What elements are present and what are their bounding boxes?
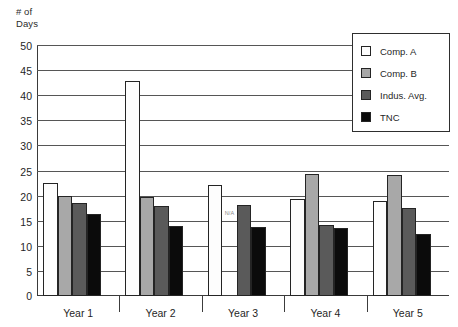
bar: [251, 227, 266, 296]
bar: [290, 199, 305, 296]
bar: [416, 234, 431, 296]
legend-swatch-icon: [361, 46, 371, 56]
chart-legend: Comp. AComp. BIndus. Avg.TNC: [352, 33, 450, 132]
legend-item: Comp. B: [361, 62, 449, 84]
y-axis-tick-label: 5: [26, 266, 32, 278]
y-axis-tick-label: 45: [20, 65, 32, 77]
bar-group: N/A: [202, 45, 284, 296]
x-axis-label: Year 1: [37, 302, 119, 324]
legend-item-label: TNC: [380, 112, 400, 123]
y-axis-tick-label: 50: [20, 40, 32, 52]
legend-swatch-icon: [361, 68, 371, 78]
bar: [319, 225, 334, 296]
bar: [140, 197, 155, 296]
y-axis-tick-label: 10: [20, 241, 32, 253]
bar: [402, 208, 417, 296]
bar: [169, 226, 184, 296]
y-axis-tick-label: 20: [20, 191, 32, 203]
bar: [72, 203, 87, 296]
y-axis-tick-label: 35: [20, 115, 32, 127]
y-axis-title: # of Days: [16, 6, 38, 30]
y-axis-tick-label: 40: [20, 90, 32, 102]
x-axis-label: Year 5: [367, 302, 449, 324]
bar-chart: # of Days 05101520253035404550 N/A Year …: [0, 0, 458, 327]
legend-swatch-icon: [361, 90, 371, 100]
x-axis-label: Year 4: [284, 302, 366, 324]
legend-item-label: Comp. B: [380, 68, 417, 79]
legend-swatch-icon: [361, 112, 371, 122]
x-axis-label: Year 3: [202, 302, 284, 324]
bar: [237, 205, 252, 296]
bar: [58, 196, 73, 296]
x-axis-labels: Year 1Year 2Year 3Year 4Year 5: [37, 302, 449, 324]
legend-item-label: Comp. A: [380, 46, 416, 57]
y-axis-tick-label: 15: [20, 216, 32, 228]
na-annotation: N/A: [225, 210, 235, 216]
y-axis-tick-label: 30: [20, 140, 32, 152]
legend-item: TNC: [361, 106, 449, 128]
bar: [125, 81, 140, 296]
bar: N/A: [222, 45, 237, 296]
legend-item: Indus. Avg.: [361, 84, 449, 106]
bar-group: [119, 45, 201, 296]
legend-item: Comp. A: [361, 40, 449, 62]
bar: [387, 175, 402, 296]
y-axis-tick-label: 0: [26, 290, 32, 302]
bar-group: [37, 45, 119, 296]
x-axis-label: Year 2: [119, 302, 201, 324]
bar: [154, 206, 169, 296]
y-axis-tick-label: 25: [20, 166, 32, 178]
bar: [334, 228, 349, 296]
bar: [87, 214, 102, 296]
bar: [208, 185, 223, 296]
bar: [43, 183, 58, 296]
legend-item-label: Indus. Avg.: [380, 90, 427, 101]
bar: [373, 201, 388, 296]
bar: [305, 174, 320, 296]
